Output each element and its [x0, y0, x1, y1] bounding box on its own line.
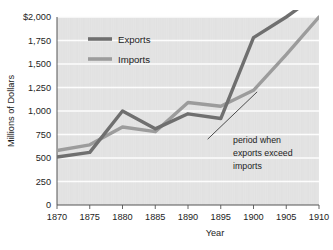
- x-tick-1905: 1905: [276, 212, 296, 222]
- x-axis-title: Year: [206, 228, 225, 238]
- annotation-line-2: exports exceed: [233, 148, 293, 158]
- y-tick-1500: 1,500: [28, 59, 51, 69]
- y-tick-250: 250: [36, 177, 51, 187]
- x-tick-1910: 1910: [309, 212, 329, 222]
- chart-svg: 02505007501,0001,2501,5001,750$2,000 187…: [0, 0, 333, 250]
- y-axis-tick-labels: 02505007501,0001,2501,5001,750$2,000: [23, 12, 51, 210]
- x-tick-1880: 1880: [112, 212, 132, 222]
- y-tick-2000: $2,000: [23, 12, 51, 22]
- annotation-line-1: period when: [233, 135, 281, 145]
- legend-label-exports: Exports: [118, 34, 151, 45]
- x-tick-1870: 1870: [47, 212, 67, 222]
- legend-label-imports: Imports: [118, 54, 150, 65]
- y-tick-1250: 1,250: [28, 83, 51, 93]
- x-tick-1890: 1890: [178, 212, 198, 222]
- annotation-line-3: imports: [233, 161, 262, 171]
- y-tick-500: 500: [36, 153, 51, 163]
- x-tick-1875: 1875: [80, 212, 100, 222]
- y-tick-1750: 1,750: [28, 36, 51, 46]
- y-tick-750: 750: [36, 130, 51, 140]
- y-axis-title: Millions of Dollars: [6, 75, 16, 147]
- x-axis-tick-labels: 187018751880188518901895190019051910: [47, 205, 329, 222]
- y-tick-0: 0: [46, 200, 51, 210]
- y-tick-1000: 1,000: [28, 106, 51, 116]
- line-chart-figure: 02505007501,0001,2501,5001,750$2,000 187…: [0, 0, 333, 250]
- x-tick-1895: 1895: [211, 212, 231, 222]
- x-tick-1885: 1885: [145, 212, 165, 222]
- x-tick-1900: 1900: [243, 212, 263, 222]
